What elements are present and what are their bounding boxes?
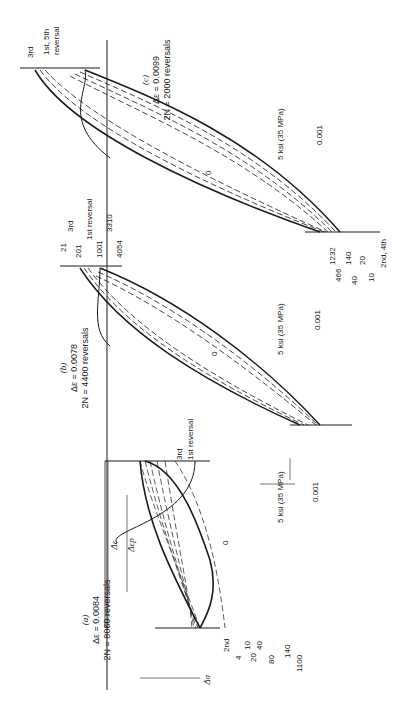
panel-c-strain-range: Δε = 0.0099: [151, 56, 161, 104]
panel-b-bottom-label: 10: [367, 273, 376, 282]
panel-a-cycle-label: 20: [249, 653, 258, 662]
panel-b-bottom-label: 20: [358, 256, 367, 265]
panel-b-letter: (b): [58, 363, 68, 374]
panel-b-loop: [84, 268, 304, 425]
panel-a-delta-epsp-label: Δεp: [126, 538, 136, 553]
panel-b-bottom-label: 2nd, 4th: [379, 239, 388, 268]
panel-a-cycle-label: 1100: [295, 654, 304, 672]
hysteresis-figure: (a) Δε = 0.0084 2N = 8060 reversals Δε Δ…: [0, 0, 396, 710]
panel-c: [20, 68, 380, 232]
panel-b-bottom-label: 1232: [328, 247, 337, 265]
panel-c-top-label: 3rd: [26, 46, 35, 58]
panel-c-origin: 0: [204, 170, 213, 175]
panel-b: [60, 266, 352, 425]
panel-a-cycle-label: 40: [255, 641, 264, 650]
panel-c-caption: (c) Δε = 0.0099 2N = 2000 reversals: [140, 39, 172, 120]
panel-b-bottom-label: 140: [344, 251, 353, 265]
panel-b-top-label: 4054: [115, 240, 124, 258]
panel-b-bottom-label: 40: [350, 276, 359, 285]
panel-b-top-label: 3310: [105, 214, 114, 232]
panel-a-cycle-label: 10: [243, 641, 252, 650]
panel-c-stress-scale: 5 ksi (35 MPa): [276, 108, 285, 160]
panel-c-loop-upper: [85, 70, 340, 232]
panel-a-stress-scale: 5 ksi (35 MPa): [276, 471, 285, 523]
panel-a-strain-range: Δε = 0.0084: [91, 596, 101, 644]
panel-c-top-label: reversal: [52, 26, 61, 55]
panel-b-reversals: 2N = 4400 reversals: [80, 327, 90, 408]
panel-c-top-label: 1st, 5th: [42, 29, 51, 55]
panel-b-top-label: 21: [59, 243, 68, 252]
panel-a-delta-sigma-label: Δσ: [202, 675, 212, 686]
panel-a-label-1st-reversal: 1st reversal: [186, 418, 195, 460]
panel-a-origin: 0: [221, 540, 230, 545]
panel-b-bottom-label: 466: [334, 268, 343, 282]
panel-b-strain-range: Δε = 0.0078: [69, 344, 79, 392]
panel-a-cycle-label: 140: [283, 644, 292, 658]
panel-a-cycle-labels: 2nd 4 10 20 40 80 140 1100: [222, 639, 304, 672]
panel-a-loop: [175, 461, 225, 628]
panel-b-top-label: 1001: [95, 240, 104, 258]
panel-a-reversals: 2N = 8060 reversals: [102, 579, 112, 660]
panel-a-loop: [140, 461, 200, 628]
panel-a-label-3rd: 3rd: [175, 448, 184, 460]
panel-a-caption: (a) Δε = 0.0084 2N = 8060 reversals: [80, 579, 112, 660]
panel-c-reversals: 2N = 2000 reversals: [162, 39, 172, 120]
panel-b-loop: [98, 272, 318, 425]
panel-b-strain-scale: 0.001: [313, 309, 322, 330]
panel-c-top-labels: 3rd 1st, 5th reversal: [26, 26, 61, 58]
panel-b-bottom-labels: 1232 466 140 40 20 10 2nd, 4th: [328, 239, 388, 285]
panel-a-cycle-label: 2nd: [222, 639, 231, 652]
panel-b-top-label: 1st reversal: [85, 198, 94, 240]
panel-a-envelope: [140, 461, 200, 628]
panel-a-strain-scale: 0.001: [311, 481, 320, 502]
panel-b-caption: (b) Δε = 0.0078 2N = 4400 reversals: [58, 327, 90, 408]
panel-c-strain-scale: 0.001: [315, 124, 324, 145]
panel-b-top-label: 3rd: [66, 220, 75, 232]
panel-a-delta-eps-label: Δε: [109, 540, 119, 550]
panel-b-origin: 0: [210, 351, 219, 356]
panel-a-letter: (a): [80, 615, 90, 626]
panel-a: [105, 461, 225, 678]
panel-a-cycle-label: 80: [267, 655, 276, 664]
panel-b-top-labels: 21 3rd 201 1st reversal 1001 3310 4054: [59, 198, 124, 258]
panel-b-loop: [88, 268, 308, 425]
panel-b-top-label: 201: [74, 244, 83, 258]
panel-c-loop: [80, 72, 336, 232]
panel-a-cycle-label: 4: [234, 655, 243, 660]
panel-b-first-reversal: [98, 268, 111, 346]
panel-c-letter: (c): [140, 75, 150, 85]
panel-b-loop-lower: [80, 268, 300, 425]
panel-c-loop: [70, 76, 328, 232]
panel-b-stress-scale: 5 ksi (35 MPa): [276, 303, 285, 355]
